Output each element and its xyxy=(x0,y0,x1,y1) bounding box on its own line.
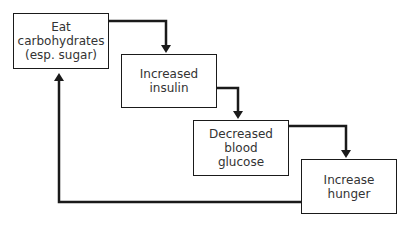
node-eat-carbohydrates: Eat carbohydrates (esp. sugar) xyxy=(13,13,109,69)
arrowhead-icon xyxy=(54,73,64,81)
arrow-glucose-to-hunger xyxy=(289,126,351,158)
arrow-eat-to-insulin xyxy=(109,21,171,53)
arrowhead-icon xyxy=(161,45,171,53)
arrow-insulin-to-glucose xyxy=(217,88,243,119)
arrowhead-icon xyxy=(233,111,243,119)
arrowhead-icon xyxy=(341,150,351,158)
node-increased-insulin: Increased insulin xyxy=(121,54,217,108)
node-increase-hunger: Increase hunger xyxy=(301,159,397,214)
node-decreased-blood-glucose: Decreased blood glucose xyxy=(193,120,289,176)
